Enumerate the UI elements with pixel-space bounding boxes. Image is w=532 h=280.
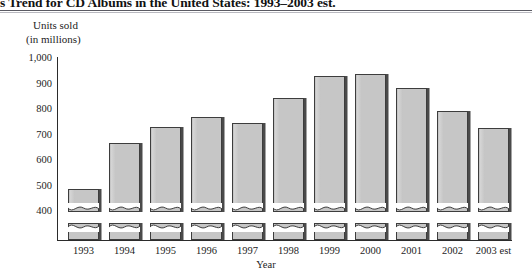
y-axis-tick-label: 600 — [4, 155, 52, 166]
bar-body[interactable] — [232, 123, 263, 212]
bar-group[interactable] — [437, 57, 468, 241]
bar-body[interactable] — [437, 111, 468, 212]
bar-stub[interactable] — [273, 223, 304, 240]
y-axis-tick-label: 1,000 — [4, 53, 52, 64]
bar-body[interactable] — [191, 117, 222, 212]
bar-group[interactable] — [68, 57, 99, 241]
bar-group[interactable] — [478, 57, 509, 241]
bar-stub[interactable] — [191, 223, 222, 240]
bar-body[interactable] — [314, 76, 345, 212]
y-axis-tick-label: 400 — [4, 206, 52, 217]
bar-stub[interactable] — [68, 223, 99, 240]
bar-body[interactable] — [396, 88, 427, 212]
bar-group[interactable] — [314, 57, 345, 241]
x-axis-title: Year — [0, 259, 532, 271]
bar-stub[interactable] — [314, 223, 345, 240]
bar-group[interactable] — [355, 57, 386, 241]
y-axis-tick-labels: 1,000900800700600500400 — [0, 0, 52, 280]
y-axis-tick-label: 800 — [4, 104, 52, 115]
bar-stub[interactable] — [437, 223, 468, 240]
figure-title: s Trend for CD Albums in the United Stat… — [0, 0, 532, 10]
bar-group[interactable] — [396, 57, 427, 241]
y-axis-tick-label: 500 — [4, 181, 52, 192]
x-axis-tick-label: 2003 est — [464, 245, 523, 257]
y-axis-tick-label: 900 — [4, 79, 52, 90]
bar-stub[interactable] — [478, 223, 509, 240]
bar-stub[interactable] — [355, 223, 386, 240]
bar-stub[interactable] — [396, 223, 427, 240]
bar-body[interactable] — [355, 74, 386, 212]
bar-group[interactable] — [150, 57, 181, 241]
y-axis-tick-label: 700 — [4, 130, 52, 141]
plot-area — [57, 57, 512, 241]
bar-body[interactable] — [273, 98, 304, 212]
bar-body[interactable] — [109, 143, 140, 212]
bar-stub[interactable] — [232, 223, 263, 240]
bar-group[interactable] — [232, 57, 263, 241]
title-divider-rule — [0, 10, 532, 11]
bar-group[interactable] — [191, 57, 222, 241]
bar-group[interactable] — [273, 57, 304, 241]
bar-stub[interactable] — [150, 223, 181, 240]
bar-group[interactable] — [109, 57, 140, 241]
bar-body[interactable] — [68, 189, 99, 212]
bar-stub[interactable] — [109, 223, 140, 240]
title-divider-rule-secondary — [0, 12, 532, 13]
bar-body[interactable] — [478, 128, 509, 212]
bar-body[interactable] — [150, 127, 181, 212]
